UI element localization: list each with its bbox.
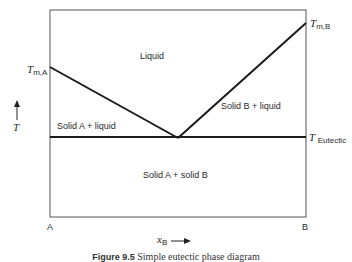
tm-a-subscript: m,A [33,68,47,77]
tm-a-label: Tm,A [27,63,47,75]
diagram-frame [50,10,306,217]
eutectic-subscript: Eutectic [318,136,346,145]
liquidus-line-b [178,23,306,138]
tm-b-label: Tm,B [310,17,330,29]
y-axis-label: T [13,121,19,133]
region-liquid-label: Liquid [140,51,164,61]
x-right-label: B [302,222,308,232]
region-solid-a-solid-b-label: Solid A + solid B [143,170,208,180]
x-axis-label: xB [157,233,167,245]
temperature-arrow-icon [14,100,20,120]
figure-caption-text: Simple eutectic phase diagram [137,251,259,262]
figure-number: Figure 9.5 [92,252,135,262]
region-solid-a-liquid-label: Solid A + liquid [57,121,116,131]
x-left-label: A [47,222,53,232]
region-solid-b-liquid-label: Solid B + liquid [221,101,281,111]
eutectic-symbol: T [309,131,315,143]
figure-caption: Figure 9.5 Simple eutectic phase diagram [0,251,352,262]
composition-arrow-icon [171,238,191,244]
x-axis-subscript: B [162,238,167,247]
eutectic-label: T Eutectic [309,131,346,143]
tm-b-subscript: m,B [316,22,330,31]
